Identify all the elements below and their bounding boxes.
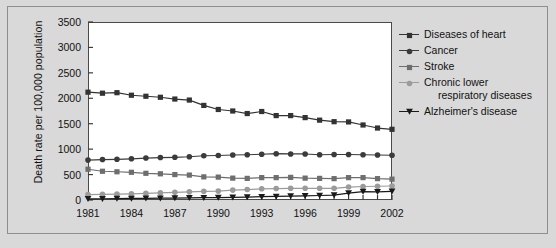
- legend-label: Alzheimer's disease: [424, 105, 554, 118]
- series-0: [85, 90, 394, 132]
- legend-marker-square-icon: [398, 28, 420, 41]
- legend-item[interactable]: Cancer: [398, 44, 554, 57]
- legend-marker-circle-icon: [398, 76, 420, 89]
- legend-item[interactable]: Diseases of heart: [398, 28, 554, 41]
- figure: Death rate per 100,000 population 050010…: [0, 0, 556, 248]
- series-2: [85, 167, 394, 182]
- legend-marker-triangle-down-icon: [398, 105, 420, 118]
- legend-label: Chronic lowerrespiratory diseases: [424, 76, 554, 101]
- series-1: [85, 151, 395, 163]
- legend-item[interactable]: Stroke: [398, 60, 554, 73]
- legend-label: Stroke: [424, 60, 554, 73]
- chart-legend: Diseases of heartCancerStrokeChronic low…: [398, 28, 554, 121]
- legend-item[interactable]: Chronic lowerrespiratory diseases: [398, 76, 554, 101]
- legend-item[interactable]: Alzheimer's disease: [398, 105, 554, 118]
- legend-label: Cancer: [424, 44, 554, 57]
- legend-marker-square-icon: [398, 60, 420, 73]
- legend-label: Diseases of heart: [424, 28, 554, 41]
- legend-marker-circle-icon: [398, 44, 420, 57]
